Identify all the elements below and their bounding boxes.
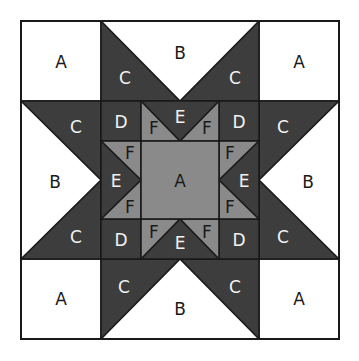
label-f-right-bottom: F [225, 197, 235, 217]
label-f-left-top: F [125, 143, 135, 163]
label-f-top-right: F [202, 118, 212, 138]
label-d-top-right: D [232, 112, 245, 132]
label-e-left: E [111, 171, 122, 191]
label-a-center: A [174, 171, 186, 191]
label-f-bottom-right: F [202, 222, 212, 242]
label-c-top-left: C [119, 68, 131, 88]
label-c-right-bottom: C [277, 227, 289, 247]
label-a-top-right: A [293, 52, 305, 72]
label-b-right: B [302, 172, 314, 192]
label-e-right: E [239, 171, 250, 191]
label-d-top-left: D [114, 112, 127, 132]
label-f-bottom-left: F [149, 222, 159, 242]
label-a-top-left: A [55, 52, 67, 72]
label-c-bottom-left: C [118, 277, 130, 297]
label-c-top-right: C [229, 68, 241, 88]
label-b-left: B [49, 172, 61, 192]
label-f-right-top: F [225, 143, 235, 163]
quilt-block-diagram: A A A A B C C B C C B C C B C C D D D D … [0, 0, 359, 361]
label-b-bottom: B [174, 299, 186, 319]
label-c-left-bottom: C [70, 227, 82, 247]
label-d-bottom-left: D [114, 230, 127, 250]
label-c-right-top: C [277, 117, 289, 137]
label-c-bottom-right: C [229, 277, 241, 297]
label-f-top-left: F [149, 118, 159, 138]
label-a-bottom-left: A [55, 289, 67, 309]
label-e-bottom: E [175, 233, 186, 253]
label-f-left-bottom: F [125, 197, 135, 217]
label-e-top: E [175, 107, 186, 127]
label-d-bottom-right: D [232, 230, 245, 250]
label-c-left-top: C [70, 117, 82, 137]
label-b-top: B [174, 43, 186, 63]
label-a-bottom-right: A [293, 289, 305, 309]
